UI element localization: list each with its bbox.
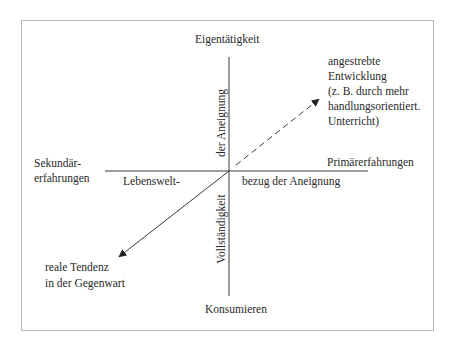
caption-vertical-lower: Vollständigkeit bbox=[214, 189, 228, 269]
caption-horizontal-right: bezug der Aneignung bbox=[242, 174, 340, 189]
desired-line-2: Entwicklung bbox=[328, 69, 387, 84]
real-line-2: in der Gegenwart bbox=[45, 276, 125, 291]
caption-vertical-upper: der Aneignung bbox=[214, 83, 228, 163]
axis-label-bottom: Konsumieren bbox=[205, 302, 267, 317]
desired-development-arrow bbox=[236, 100, 318, 165]
desired-line-1: angestrebte bbox=[328, 54, 380, 69]
axis-label-left-1: Sekundär- bbox=[34, 156, 81, 171]
real-line-1: reale Tendenz bbox=[45, 260, 109, 275]
axis-label-left-2: erfahrungen bbox=[34, 171, 90, 186]
caption-horizontal-left: Lebenswelt- bbox=[123, 174, 180, 189]
axis-label-top: Eigentätigkeit bbox=[195, 32, 260, 47]
desired-line-5: Unterricht) bbox=[328, 114, 379, 129]
axis-label-right: Primärerfahrungen bbox=[327, 155, 414, 170]
desired-line-4: handlungsorientiert. bbox=[328, 99, 420, 114]
desired-line-3: (z. B. durch mehr bbox=[328, 84, 409, 99]
